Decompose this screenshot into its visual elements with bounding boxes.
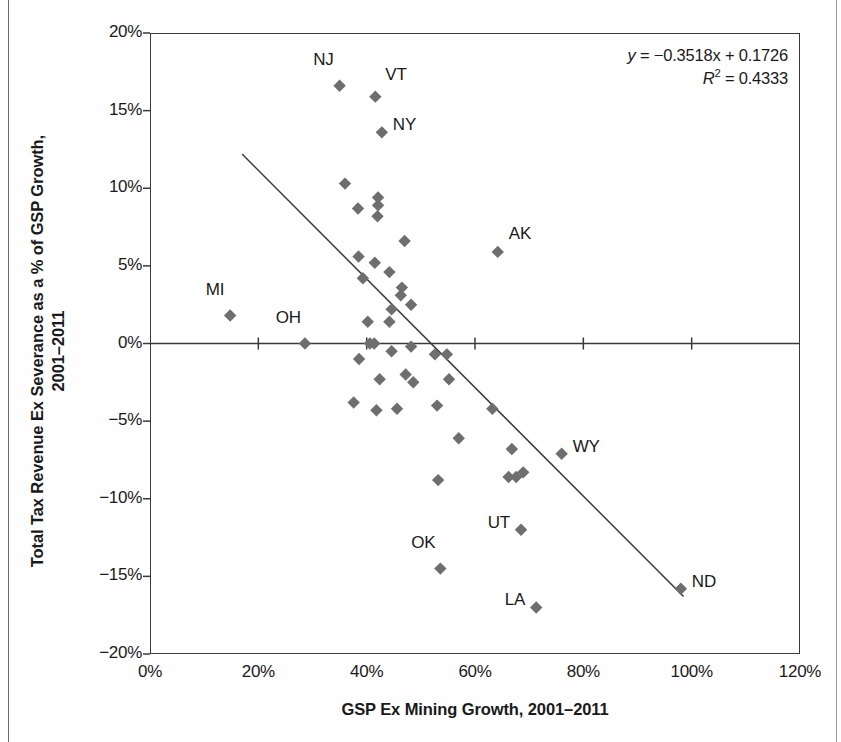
- x-tick-label: 120%: [755, 662, 841, 682]
- x-tick-label: 80%: [538, 662, 628, 682]
- equation-body: = −0.3518x + 0.1726: [640, 46, 788, 64]
- x-tick-label: 60%: [430, 662, 520, 682]
- x-axis-tick-labels: 0%20%40%60%80%100%120%: [0, 0, 841, 742]
- y-axis-title-line1: Total Tax Revenue Ex Severance as a % of…: [28, 135, 46, 567]
- x-tick-label: 0%: [105, 662, 195, 682]
- regression-annotation: y = −0.3518x + 0.1726 R2 = 0.4333: [500, 44, 788, 89]
- x-axis-title: GSP Ex Mining Growth, 2001–2011: [150, 700, 800, 719]
- r2-symbol: R: [703, 69, 715, 87]
- x-tick-label: 20%: [213, 662, 303, 682]
- y-axis-title-line2: 2001–2011: [48, 31, 69, 671]
- regression-equation-line: y = −0.3518x + 0.1726: [500, 44, 788, 66]
- y-axis-title: Total Tax Revenue Ex Severance as a % of…: [27, 31, 69, 671]
- regression-r2-line: R2 = 0.4333: [500, 66, 788, 89]
- x-tick-label: 40%: [322, 662, 412, 682]
- x-tick-label: 100%: [647, 662, 737, 682]
- equation-variable-y: y: [628, 46, 636, 64]
- scatter-chart: MIOHNJVTNYAKWYUTOKLAND 20%15%10%5%0%−5%−…: [0, 0, 841, 742]
- figure-frame: MIOHNJVTNYAKWYUTOKLAND 20%15%10%5%0%−5%−…: [0, 0, 841, 742]
- r2-value: = 0.4333: [725, 69, 788, 87]
- r2-exponent: 2: [714, 67, 720, 79]
